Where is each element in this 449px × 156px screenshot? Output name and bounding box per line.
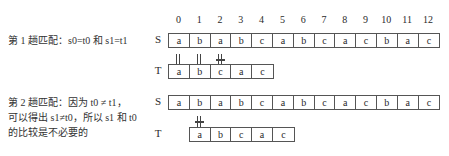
t-cell: c bbox=[252, 65, 273, 78]
t-cell: a bbox=[169, 65, 190, 78]
s-cell: a bbox=[211, 96, 232, 109]
s-cell: a bbox=[398, 34, 419, 47]
s-cell: b bbox=[190, 96, 211, 109]
pass2-description-line: 的比较是不必要的 bbox=[8, 125, 137, 140]
index-label: 7 bbox=[314, 14, 335, 25]
s-cell: b bbox=[377, 96, 398, 109]
index-label: 1 bbox=[189, 14, 210, 25]
not-equal-mark-icon bbox=[197, 116, 201, 127]
pass2-description-line: 第 2 趟匹配：因为 t0 ≠ t1， bbox=[8, 95, 137, 110]
s-cell: c bbox=[419, 34, 440, 47]
t-cell: a bbox=[190, 128, 211, 141]
index-label: 6 bbox=[293, 14, 314, 25]
pass1-description: 第 1 趟匹配：s0=t0 和 s1=t1 bbox=[8, 33, 128, 48]
s-cell: c bbox=[252, 34, 273, 47]
s-cell: a bbox=[398, 96, 419, 109]
pass1-s-string: a b a b c a b c a c b a c bbox=[168, 33, 440, 48]
s-cell: a bbox=[273, 34, 294, 47]
t-label: T bbox=[153, 64, 163, 76]
index-label: 12 bbox=[418, 14, 439, 25]
s-cell: a bbox=[169, 96, 190, 109]
index-label: 11 bbox=[397, 14, 418, 25]
s-cell: a bbox=[169, 34, 190, 47]
t-cell: c bbox=[273, 128, 294, 141]
t-cell: b bbox=[190, 65, 211, 78]
s-cell: c bbox=[419, 96, 440, 109]
index-label: 4 bbox=[251, 14, 272, 25]
s-cell: b bbox=[231, 34, 252, 47]
pass1-compare-marks bbox=[168, 51, 230, 63]
s-cell: b bbox=[377, 34, 398, 47]
index-label: 9 bbox=[355, 14, 376, 25]
pass2-description: 第 2 趟匹配：因为 t0 ≠ t1， 可以得出 s1≠t0，所以 s1 和 t… bbox=[8, 95, 137, 140]
t-cell: a bbox=[231, 65, 252, 78]
pass1-t-string: a b c a c bbox=[168, 64, 274, 79]
s-cell: a bbox=[335, 96, 356, 109]
index-row: 0 1 2 3 4 5 6 7 8 9 10 11 12 bbox=[168, 14, 438, 25]
s-cell: b bbox=[231, 96, 252, 109]
index-label: 8 bbox=[334, 14, 355, 25]
index-label: 0 bbox=[168, 14, 189, 25]
s-cell: c bbox=[315, 96, 336, 109]
s-label: S bbox=[153, 95, 163, 107]
s-label: S bbox=[153, 33, 163, 45]
t-label: T bbox=[153, 127, 163, 139]
s-cell: b bbox=[294, 96, 315, 109]
t-cell: b bbox=[211, 128, 232, 141]
index-label: 3 bbox=[230, 14, 251, 25]
index-label: 10 bbox=[376, 14, 397, 25]
s-cell: c bbox=[252, 96, 273, 109]
pass2-description-line: 可以得出 s1≠t0，所以 s1 和 t0 bbox=[8, 110, 137, 125]
pass2-t-string: a b c a c bbox=[189, 127, 295, 142]
s-cell: a bbox=[273, 96, 294, 109]
pass2-compare-marks bbox=[189, 113, 210, 125]
index-label: 2 bbox=[210, 14, 231, 25]
pass2-s-string: a b a b c a b c a c b a c bbox=[168, 95, 440, 110]
t-cell: a bbox=[252, 128, 273, 141]
s-cell: b bbox=[190, 34, 211, 47]
s-cell: a bbox=[335, 34, 356, 47]
s-cell: a bbox=[211, 34, 232, 47]
t-cell: c bbox=[231, 128, 252, 141]
s-cell: c bbox=[315, 34, 336, 47]
s-cell: c bbox=[356, 96, 377, 109]
s-cell: c bbox=[356, 34, 377, 47]
index-label: 5 bbox=[272, 14, 293, 25]
t-cell: c bbox=[211, 65, 232, 78]
s-cell: b bbox=[294, 34, 315, 47]
